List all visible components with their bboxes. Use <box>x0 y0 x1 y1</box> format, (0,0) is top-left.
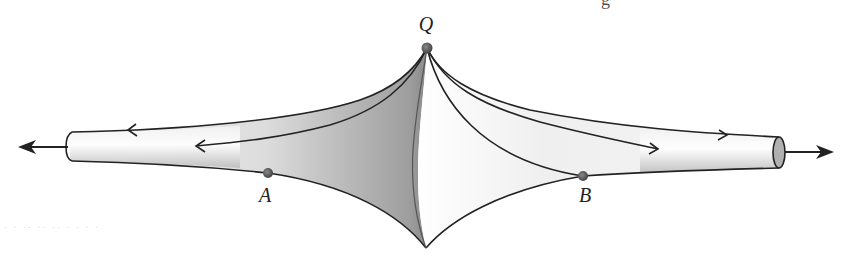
label-q: Q <box>419 14 433 34</box>
right-tube-end <box>773 137 785 168</box>
bleed-through-text: · · ·· ·· ·· · · · · <box>4 222 100 232</box>
point-q-dot <box>422 43 433 54</box>
surface-figure <box>0 0 850 258</box>
cropped-header-text: g <box>601 0 610 8</box>
label-a: A <box>259 185 271 205</box>
right-axis-arrow <box>780 145 834 159</box>
point-b-dot <box>578 171 588 181</box>
diagram-canvas: Q A B g · · ·· ·· ·· · · · · <box>0 0 850 258</box>
label-b: B <box>579 185 591 205</box>
left-axis-arrow <box>18 140 68 154</box>
point-a-dot <box>263 168 273 178</box>
